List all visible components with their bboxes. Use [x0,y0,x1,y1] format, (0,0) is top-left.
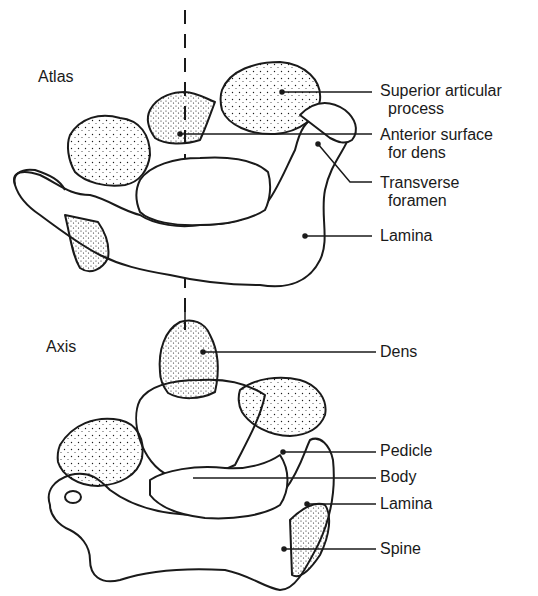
atlas-title: Atlas [38,68,74,86]
label-line1: Superior articular [380,82,502,99]
label-axis-lamina: Lamina [380,495,432,513]
label-line2: foramen [380,192,459,210]
axis-title: Axis [46,338,76,356]
label-body: Body [380,468,416,486]
label-atlas-lamina: Lamina [380,227,432,245]
label-spine: Spine [380,540,421,558]
label-anterior-surface-for-dens: Anterior surface for dens [380,126,493,162]
label-dens: Dens [380,343,417,361]
label-transverse-foramen: Transverse foramen [380,174,459,210]
label-pedicle: Pedicle [380,442,432,460]
label-line1: Anterior surface [380,126,493,143]
atlas-drawing [14,62,356,286]
label-line2: for dens [380,144,493,162]
label-superior-articular-process: Superior articular process [380,82,502,118]
label-line1: Transverse [380,174,459,191]
label-line2: process [380,100,502,118]
